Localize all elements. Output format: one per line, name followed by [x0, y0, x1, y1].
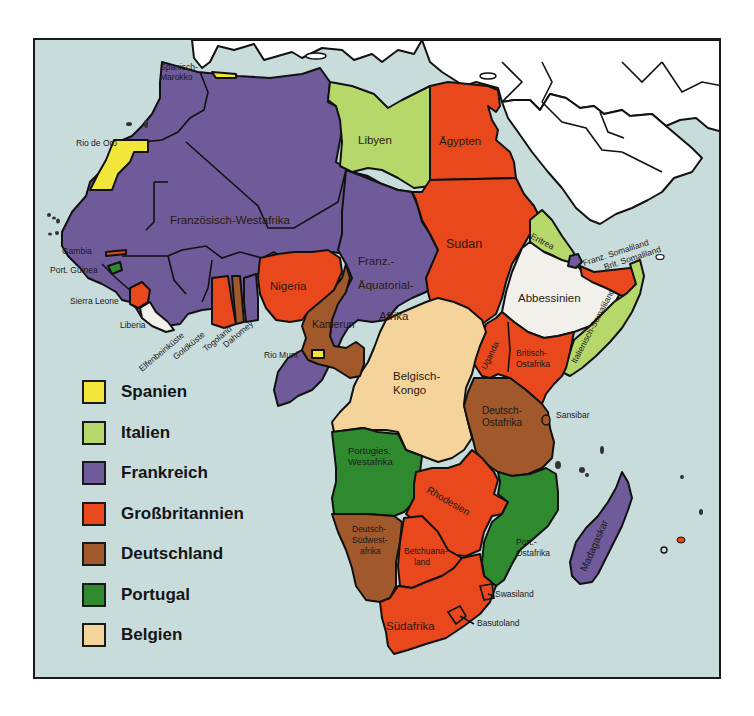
legend-item-deutschland: Deutschland — [82, 534, 244, 575]
legend-label: Deutschland — [121, 544, 223, 564]
label-nigeria: Nigeria — [270, 280, 307, 292]
label-dt-ostafrika-1: Deutsch- — [482, 405, 522, 416]
label-dt-suedwest-1: Deutsch- — [352, 524, 386, 534]
legend-item-belgien: Belgien — [82, 615, 244, 656]
label-brit-ostafrika-1: Britisch- — [516, 348, 547, 358]
label-abbessinien: Abbessinien — [518, 292, 581, 304]
label-port-ostafrika-1: Port.- — [516, 537, 537, 547]
legend-item-frankreich: Frankreich — [82, 453, 244, 494]
label-dt-suedwest-3: afrika — [360, 546, 381, 556]
legend-swatch-italien — [82, 421, 106, 445]
label-sierra-leone: Sierra Leone — [70, 296, 119, 306]
map-legend: Spanien Italien Frankreich Großbritannie… — [82, 372, 244, 656]
legend-item-spanien: Spanien — [82, 372, 244, 413]
legend-swatch-grossbritannien — [82, 502, 106, 526]
label-sansibar: Sansibar — [556, 410, 590, 420]
label-franz-aeq-1: Franz.- — [358, 255, 395, 267]
label-port-ostafrika-2: Ostafrika — [516, 548, 550, 558]
label-kamerun: Kamerun — [312, 318, 355, 330]
territory-spain-rio-muni — [312, 350, 324, 358]
legend-item-italien: Italien — [82, 413, 244, 454]
legend-swatch-deutschland — [82, 542, 106, 566]
legend-label: Italien — [121, 423, 170, 443]
legend-label: Großbritannien — [121, 504, 244, 524]
legend-swatch-spanien — [82, 380, 106, 404]
legend-item-grossbritannien: Großbritannien — [82, 494, 244, 535]
label-betschuana-2: land — [414, 557, 430, 567]
label-libyen: Libyen — [358, 134, 392, 146]
label-rio-de-oro: Rio de Oro — [76, 138, 117, 148]
label-rio-muni: Rio Muni — [264, 350, 298, 360]
label-franz-aeq-2: Äquatorial- — [358, 279, 414, 291]
label-betschuana-1: Betchuana- — [404, 546, 448, 556]
label-swasiland: Swasiland — [495, 589, 534, 599]
legend-swatch-frankreich — [82, 461, 106, 485]
label-franz-westafrika: Französisch-Westafrika — [170, 214, 291, 226]
label-franz-aeq-3: Afrika — [379, 310, 409, 322]
label-belg-kongo-1: Belgisch- — [393, 370, 440, 382]
label-liberia: Liberia — [120, 320, 146, 330]
legend-label: Belgien — [121, 625, 182, 645]
legend-label: Frankreich — [121, 463, 208, 483]
legend-swatch-belgien — [82, 623, 106, 647]
label-dt-suedwest-2: Südwest- — [352, 535, 388, 545]
territory-britain-gambia — [106, 250, 126, 256]
territory-spain-morocco — [212, 72, 236, 78]
territory-france-dahomey — [244, 274, 258, 322]
label-brit-ostafrika-2: Ostafrika — [516, 359, 550, 369]
legend-swatch-portugal — [82, 583, 106, 607]
label-port-guinea: Port. Guinea — [50, 265, 98, 275]
label-gambia: Gambia — [62, 246, 92, 256]
label-sudan: Sudan — [446, 237, 482, 251]
label-port-westafrika-1: Portugies. — [348, 445, 391, 456]
label-port-westafrika-2: Westafrika — [348, 456, 393, 467]
label-aegypten: Ägypten — [439, 135, 481, 147]
legend-label: Portugal — [121, 585, 190, 605]
label-spanisch-marokko-2: Marokko — [160, 72, 193, 82]
label-dt-ostafrika-2: Ostafrika — [482, 417, 522, 428]
legend-item-portugal: Portugal — [82, 575, 244, 616]
label-basutoland: Basutoland — [477, 618, 520, 628]
label-belg-kongo-2: Kongo — [393, 384, 426, 396]
legend-label: Spanien — [121, 382, 187, 402]
label-suedafrika: Südafrika — [386, 620, 435, 632]
label-spanisch-marokko-1: Spanisch- — [160, 62, 198, 72]
